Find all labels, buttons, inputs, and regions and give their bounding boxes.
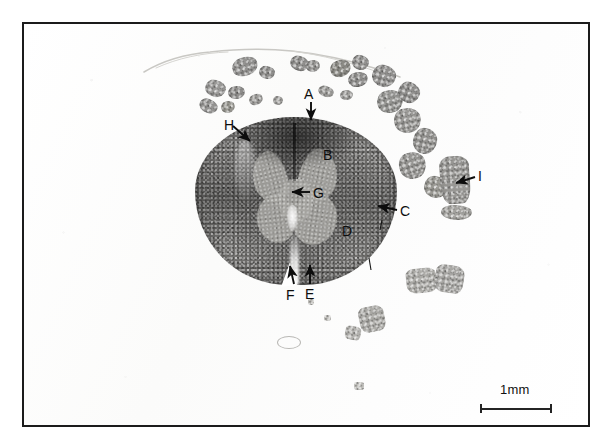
marker-label-f: F	[286, 288, 295, 302]
nerve-root-bundle	[347, 70, 370, 89]
nerve-root-bundle	[258, 65, 276, 80]
scale-bar: 1mm	[480, 382, 576, 416]
marker-label-b: B	[323, 148, 332, 162]
nerve-root-bundle	[247, 92, 264, 107]
spinal-cord-section	[195, 117, 397, 285]
marker-label-d: D	[342, 224, 352, 238]
marker-label-h: H	[224, 118, 234, 132]
scale-bar-label: 1mm	[500, 382, 530, 397]
marker-label-c: C	[400, 204, 410, 218]
scale-bar-line	[480, 408, 552, 410]
marker-label-e: E	[305, 287, 314, 301]
nerve-root-bundle	[227, 85, 246, 100]
nerve-root-bundle	[197, 96, 220, 116]
tissue-fragment	[405, 266, 438, 294]
scale-bar-tick-left	[480, 404, 482, 413]
tissue-fragment	[324, 315, 331, 321]
micrograph-image: ABCDEFGHI 1mm	[24, 24, 588, 425]
nerve-root-bundle	[305, 59, 321, 73]
nerve-root-bundle	[340, 89, 354, 100]
nerve-root-bundle	[220, 99, 236, 114]
micrograph-plate-frame: ABCDEFGHI 1mm	[22, 22, 590, 427]
nerve-root-bundle	[370, 62, 399, 89]
scale-bar-tick-right	[550, 404, 552, 413]
nerve-root-bundle	[438, 155, 471, 205]
nerve-root-bundle	[230, 53, 261, 79]
nerve-root-bundle	[317, 84, 336, 99]
marker-label-g: G	[313, 186, 324, 200]
marker-label-i: I	[478, 169, 482, 183]
nerve-root-bundle	[351, 54, 371, 72]
lateral-funiculus-pale-band	[235, 139, 255, 199]
nerve-root-bundle	[203, 78, 227, 99]
nerve-root-bundle	[273, 96, 284, 106]
nerve-root-bundle	[441, 204, 473, 220]
tissue-fragment	[344, 325, 362, 342]
tissue-fragment	[433, 263, 466, 295]
dorsal-median-sulcus	[293, 123, 296, 181]
scale-bar-rule	[480, 404, 552, 413]
figure-root: ABCDEFGHI 1mm	[0, 0, 611, 445]
tissue-fragment	[354, 382, 364, 390]
ring-artifact	[277, 336, 301, 349]
central-canal	[287, 205, 298, 231]
marker-label-a: A	[304, 87, 313, 101]
